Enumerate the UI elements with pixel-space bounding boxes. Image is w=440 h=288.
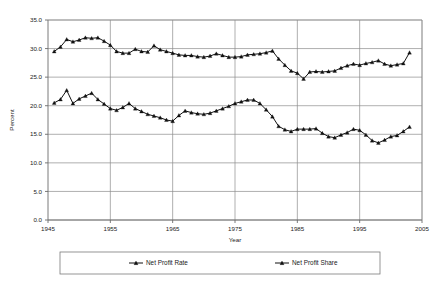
x-axis-title: Year (229, 236, 242, 243)
data-point-marker (408, 125, 412, 128)
y-tick-label: 25.0 (30, 73, 43, 80)
data-point-marker (90, 91, 94, 94)
x-tick-label: 1985 (290, 225, 304, 232)
y-tick-labels-group: 0.05.010.015.020.025.030.035.0 (30, 16, 48, 223)
data-point-marker (133, 47, 137, 50)
y-tick-label: 0.0 (33, 216, 42, 223)
x-tick-label: 1975 (228, 225, 242, 232)
y-tick-label: 5.0 (33, 188, 42, 195)
x-tick-label: 1955 (103, 225, 117, 232)
data-point-marker (152, 44, 156, 47)
legend: Net Profit RateNet Profit Share (60, 252, 380, 274)
x-tick-label: 1995 (353, 225, 367, 232)
series-net-profit-rate (52, 36, 411, 81)
legend-label: Net Profit Rate (146, 259, 188, 266)
y-tick-label: 20.0 (30, 102, 43, 109)
data-point-marker (127, 102, 131, 105)
y-tick-label: 15.0 (30, 130, 43, 137)
series-net-profit-share (52, 88, 411, 144)
y-axis-title: Percent (8, 109, 15, 131)
series-polyline (54, 90, 409, 143)
data-point-marker (376, 59, 380, 62)
y-tick-label: 30.0 (30, 45, 43, 52)
legend-label: Net Profit Share (292, 259, 338, 266)
x-tick-label: 1945 (41, 225, 55, 232)
y-tick-label: 10.0 (30, 159, 43, 166)
data-point-marker (408, 51, 412, 54)
chart-container: 0.05.010.015.020.025.030.035.01945195519… (0, 0, 440, 288)
data-point-marker (214, 52, 218, 55)
data-point-marker (65, 88, 69, 91)
x-tick-label: 1965 (166, 225, 180, 232)
gridlines-group (48, 20, 422, 220)
net-profit-chart: 0.05.010.015.020.025.030.035.01945195519… (0, 0, 440, 288)
series-polyline (54, 38, 409, 79)
data-point-marker (271, 49, 275, 52)
data-point-marker (65, 38, 69, 41)
data-point-marker (183, 109, 187, 112)
x-tick-labels-group: 1945195519651975198519952005 (41, 220, 429, 232)
y-tick-label: 35.0 (30, 16, 43, 23)
x-tick-label: 2005 (415, 225, 429, 232)
